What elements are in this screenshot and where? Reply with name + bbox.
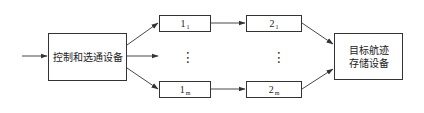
control-and-gating-device-box: 控制和选通设备 (48, 33, 127, 81)
arrow-2-1-to-target (302, 23, 333, 44)
vertical-ellipsis-col1: ⋮ (181, 50, 187, 64)
arrow-2-m-to-target (302, 69, 333, 89)
node-2-1-label: 21 (270, 18, 279, 30)
node-2-m-label: 2m (269, 84, 280, 96)
vertical-ellipsis-col2: ⋮ (272, 50, 278, 64)
target-track-storage-box: 目标航迹 存储设备 (334, 33, 403, 80)
arrow-control-to-1-m (127, 68, 158, 89)
target-track-storage-line1: 目标航迹 (349, 44, 389, 57)
node-1-1-label: 11 (181, 18, 190, 30)
node-1-m-label: 1m (180, 84, 191, 96)
target-track-storage-line2: 存储设备 (349, 57, 389, 70)
node-2-m-box: 2m (246, 81, 302, 98)
control-and-gating-device-label: 控制和选通设备 (53, 51, 123, 64)
arrow-control-to-1-1 (127, 23, 158, 45)
node-1-1-box: 11 (159, 15, 211, 32)
node-2-1-box: 21 (246, 15, 302, 32)
node-1-m-box: 1m (159, 81, 211, 98)
